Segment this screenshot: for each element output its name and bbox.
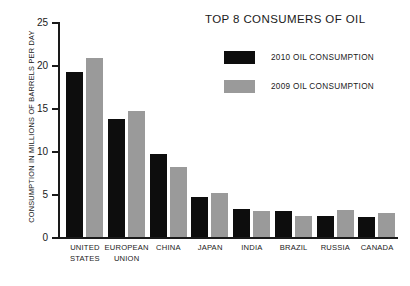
y-tick-label: 5 [8, 189, 48, 200]
bar-group [64, 22, 106, 237]
x-axis-category-labels: UNITEDSTATESEUROPEANUNIONCHINAJAPANINDIA… [64, 243, 398, 283]
bar [128, 111, 145, 237]
y-tick-label: 0 [8, 232, 48, 243]
bar-group [106, 22, 148, 237]
bar [378, 213, 395, 237]
x-axis-category-label: CANADA [347, 243, 407, 254]
y-tick-label: 10 [8, 146, 48, 157]
bar [108, 119, 125, 237]
bar [86, 58, 103, 237]
x-axis-line [58, 237, 398, 239]
bar [211, 193, 228, 237]
bar [150, 154, 167, 237]
bar-series-container [64, 22, 398, 237]
bar [275, 211, 292, 237]
bar [233, 209, 250, 237]
bar [358, 217, 375, 237]
bar-group [231, 22, 273, 237]
bar [170, 167, 187, 237]
bar [66, 72, 83, 237]
bar-group [189, 22, 231, 237]
y-tick-mark [52, 151, 59, 153]
bar-group [315, 22, 357, 237]
bar [317, 216, 334, 237]
bar-group [148, 22, 190, 237]
bar-group [273, 22, 315, 237]
bar [253, 211, 270, 237]
y-tick-label: 20 [8, 60, 48, 71]
bar [295, 216, 312, 237]
y-tick-mark [52, 22, 59, 24]
y-tick-mark [52, 237, 59, 239]
plot-area: 0510152025 [64, 22, 398, 237]
oil-consumption-bar-chart: CONSUMPTION IN MILLIONS OF BARRELS PER D… [0, 0, 410, 286]
bar [191, 197, 208, 237]
y-tick-label: 15 [8, 103, 48, 114]
y-axis-title: CONSUMPTION IN MILLIONS OF BARRELS PER D… [27, 12, 36, 242]
y-axis-line [58, 22, 60, 237]
y-tick-label: 25 [8, 17, 48, 28]
bar-group [356, 22, 398, 237]
y-tick-mark [52, 108, 59, 110]
bar [337, 210, 354, 237]
y-tick-mark [52, 194, 59, 196]
y-tick-mark [52, 65, 59, 67]
